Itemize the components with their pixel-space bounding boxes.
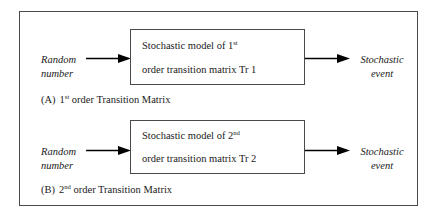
panel-caption-a: (A)1st order Transition Matrix <box>41 93 170 106</box>
figure-root: Random number Stochastic model of 1st or… <box>0 0 436 217</box>
model-box-line-1: Stochastic model of 1st <box>142 39 238 52</box>
panel-caption-b-superscript: nd <box>64 183 71 190</box>
model-box-line-1-superscript: st <box>233 39 237 46</box>
output-label-line-2: event <box>349 67 415 81</box>
model-box-line-1: Stochastic model of 2nd <box>142 129 240 142</box>
input-label-line-2: number <box>41 67 113 81</box>
panel-caption-a-suffix: order Transition Matrix <box>69 94 170 105</box>
input-label-line-2: number <box>41 159 113 173</box>
model-box-line-2: order transition matrix Tr 2 <box>142 152 256 165</box>
panel-caption-b-tag: (B) <box>41 184 55 195</box>
output-label-stochastic-event: Stochastic event <box>349 145 415 173</box>
panel-caption-b-suffix: order Transition Matrix <box>71 184 172 195</box>
output-label-line-1: Stochastic <box>349 145 415 159</box>
arrow-right-icon-input <box>86 53 131 64</box>
output-label-line-1: Stochastic <box>349 53 415 67</box>
model-box-line-1-text: Stochastic model of 2 <box>142 130 233 141</box>
model-box-line-2: order transition matrix Tr 1 <box>142 63 256 76</box>
arrow-right-icon-output <box>305 53 350 64</box>
panel-second-order-transition-matrix: Random number Stochastic model of 2nd or… <box>20 108 419 207</box>
output-label-stochastic-event: Stochastic event <box>349 53 415 81</box>
model-box-line-1-text: Stochastic model of 1 <box>142 40 233 51</box>
panel-first-order-transition-matrix: Random number Stochastic model of 1st or… <box>20 12 419 112</box>
model-box-first-order: Stochastic model of 1st order transition… <box>130 29 305 85</box>
arrow-right-icon-input <box>86 145 131 156</box>
figure-outer-border: Random number Stochastic model of 1st or… <box>19 11 418 206</box>
panel-caption-b: (B)2nd order Transition Matrix <box>41 183 172 196</box>
arrow-right-icon-output <box>305 145 350 156</box>
model-box-line-1-superscript: nd <box>233 129 240 136</box>
model-box-second-order: Stochastic model of 2nd order transition… <box>130 120 305 174</box>
panel-caption-a-tag: (A) <box>41 94 56 105</box>
output-label-line-2: event <box>349 159 415 173</box>
